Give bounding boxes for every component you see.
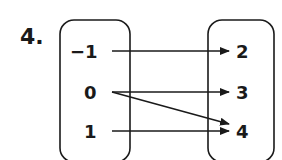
mapping-diagram: −1 0 1 2 3 4 [0, 0, 282, 160]
range-value: 4 [236, 121, 249, 142]
domain-value: 1 [84, 121, 97, 142]
range-value: 2 [236, 41, 249, 62]
domain-value: 0 [84, 82, 97, 103]
range-value: 3 [236, 82, 249, 103]
domain-value: −1 [70, 41, 98, 62]
